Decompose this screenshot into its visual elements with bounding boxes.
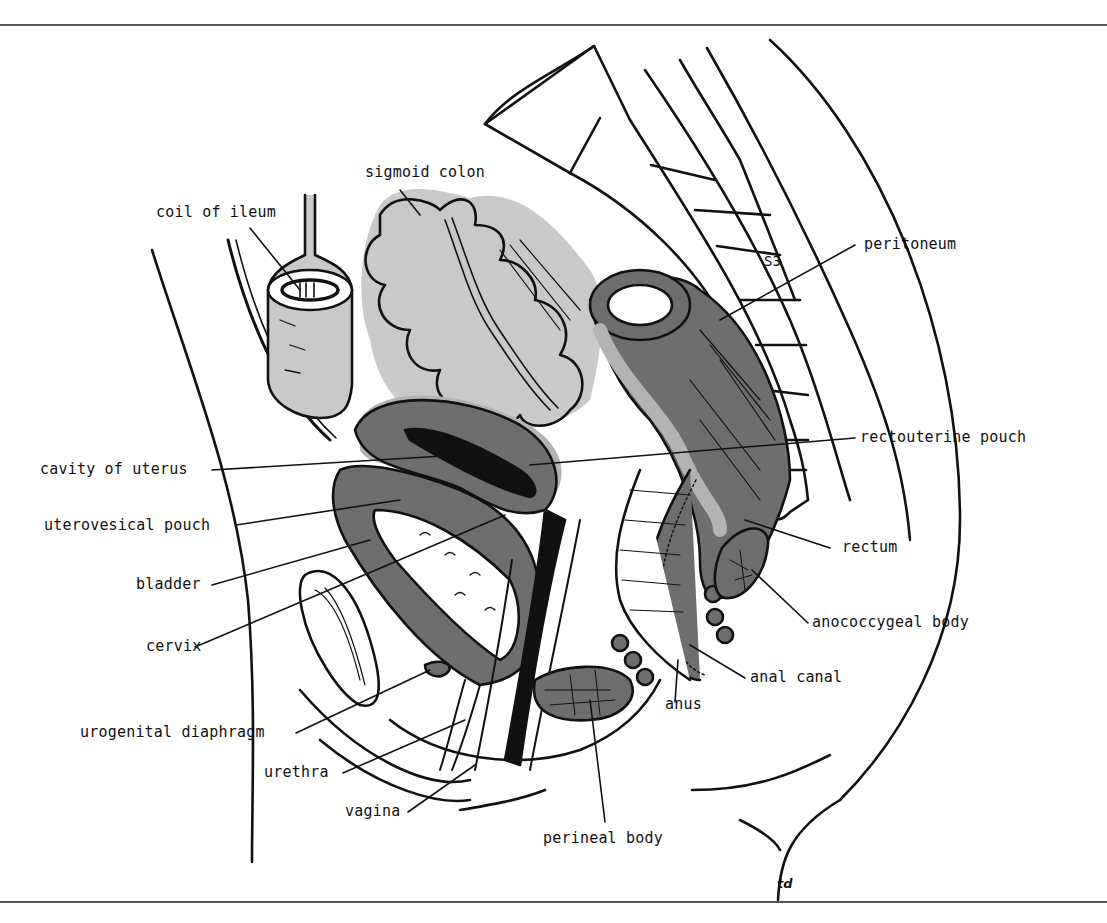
- label-urogenital-diaphragm: urogenital diaphragm: [80, 723, 265, 741]
- label-cervix: cervix: [146, 637, 201, 655]
- label-sigmoid-colon: sigmoid colon: [365, 163, 485, 181]
- leader-peritoneum: [720, 245, 855, 320]
- label-bladder: bladder: [136, 575, 201, 593]
- label-cavity-of-uterus: cavity of uterus: [40, 460, 188, 478]
- label-perineal-body: perineal body: [543, 829, 663, 847]
- leader-anococcygeal-body: [752, 570, 808, 623]
- label-coil-of-ileum: coil of ileum: [156, 203, 276, 221]
- label-peritoneum: peritoneum: [864, 235, 956, 253]
- artist-signature: td: [777, 876, 793, 891]
- label-anococcygeal-body: anococcygeal body: [812, 613, 969, 631]
- label-rectouterine-pouch: rectouterine pouch: [860, 428, 1026, 446]
- sigmoid-colon: [361, 189, 601, 430]
- label-anal-canal: anal canal: [750, 668, 842, 686]
- perineal-body: [534, 667, 633, 721]
- label-anus: anus: [665, 695, 702, 713]
- coil-of-ileum: [268, 195, 352, 418]
- urogenital-diaphragm: [425, 662, 450, 676]
- leader-bladder: [212, 540, 370, 585]
- label-rectum: rectum: [842, 538, 897, 556]
- label-vagina: vagina: [345, 802, 400, 820]
- pubic-symphysis: [300, 571, 379, 706]
- leader-vagina: [408, 765, 475, 812]
- label-uterovesical-pouch: uterovesical pouch: [44, 516, 210, 534]
- label-urethra: urethra: [264, 763, 329, 781]
- s3-vertebra-label: S3: [764, 253, 781, 269]
